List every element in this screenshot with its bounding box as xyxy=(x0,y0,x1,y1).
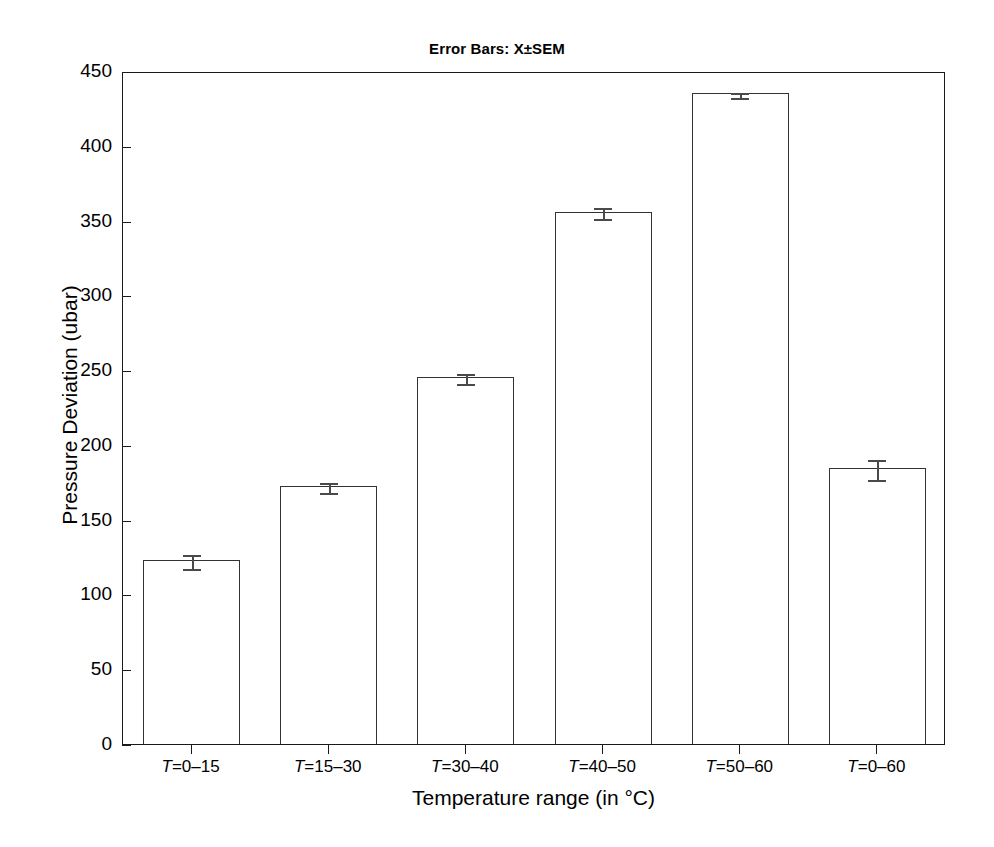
y-tick-mark xyxy=(122,670,131,671)
x-tick-label-variable: T xyxy=(162,757,172,776)
x-tick-label-range: =15–30 xyxy=(304,757,361,776)
x-tick-label-variable: T xyxy=(705,757,715,776)
y-tick-mark xyxy=(122,595,131,596)
x-tick-mark xyxy=(328,745,329,754)
y-tick-label: 350 xyxy=(50,211,112,230)
bars-layer xyxy=(123,73,944,744)
plot-area xyxy=(122,72,945,745)
x-tick-label-variable: T xyxy=(431,757,441,776)
error-cap-upper xyxy=(731,93,749,95)
figure-canvas: Error Bars: X±SEM Pressure Deviation (ub… xyxy=(0,0,994,847)
y-tick-label: 250 xyxy=(50,360,112,379)
chart-title: Error Bars: X±SEM xyxy=(0,40,994,57)
y-tick-mark xyxy=(122,296,131,297)
y-tick-label: 100 xyxy=(50,584,112,603)
error-bar xyxy=(877,460,879,479)
x-tick-label-range: =0–60 xyxy=(858,757,906,776)
bar xyxy=(143,560,240,744)
y-tick-mark xyxy=(122,371,131,372)
y-tick-label: 400 xyxy=(50,136,112,155)
error-cap-lower xyxy=(868,480,886,482)
error-cap-upper xyxy=(320,483,338,485)
y-tick-label: 450 xyxy=(50,61,112,80)
bar xyxy=(417,377,514,744)
y-tick-mark xyxy=(122,521,131,522)
bar xyxy=(555,212,652,744)
x-tick-label-variable: T xyxy=(294,757,304,776)
y-tick-mark xyxy=(122,222,131,223)
y-axis-title: Pressure Deviation (ubar) xyxy=(58,65,82,745)
x-tick-label-range: =0–15 xyxy=(172,757,220,776)
x-tick-label-range: =50–60 xyxy=(716,757,773,776)
error-cap-upper xyxy=(183,555,201,557)
error-cap-lower xyxy=(183,569,201,571)
y-tick-mark xyxy=(122,446,131,447)
y-tick-mark xyxy=(122,72,131,73)
y-tick-label: 200 xyxy=(50,435,112,454)
bar xyxy=(692,93,789,744)
error-cap-lower xyxy=(594,219,612,221)
y-tick-label: 50 xyxy=(50,659,112,678)
y-tick-label: 0 xyxy=(50,734,112,753)
y-tick-mark xyxy=(122,745,131,746)
y-tick-label: 150 xyxy=(50,510,112,529)
error-cap-lower xyxy=(320,493,338,495)
error-cap-upper xyxy=(868,460,886,462)
error-cap-lower xyxy=(457,384,475,386)
bar xyxy=(280,486,377,744)
x-tick-label-range: =40–50 xyxy=(579,757,636,776)
x-tick-mark xyxy=(465,745,466,754)
y-tick-mark xyxy=(122,147,131,148)
y-tick-label: 300 xyxy=(50,285,112,304)
x-tick-label-variable: T xyxy=(568,757,578,776)
x-tick-label: T=0–60 xyxy=(786,757,966,777)
error-cap-upper xyxy=(594,208,612,210)
x-tick-mark xyxy=(739,745,740,754)
x-tick-mark xyxy=(191,745,192,754)
x-tick-label-variable: T xyxy=(847,757,857,776)
error-cap-upper xyxy=(457,374,475,376)
x-tick-mark xyxy=(876,745,877,754)
x-axis-title: Temperature range (in °C) xyxy=(122,786,945,810)
error-cap-lower xyxy=(731,98,749,100)
x-tick-label-range: =30–40 xyxy=(442,757,499,776)
bar xyxy=(829,468,926,744)
error-bar xyxy=(192,555,194,568)
x-tick-mark xyxy=(602,745,603,754)
